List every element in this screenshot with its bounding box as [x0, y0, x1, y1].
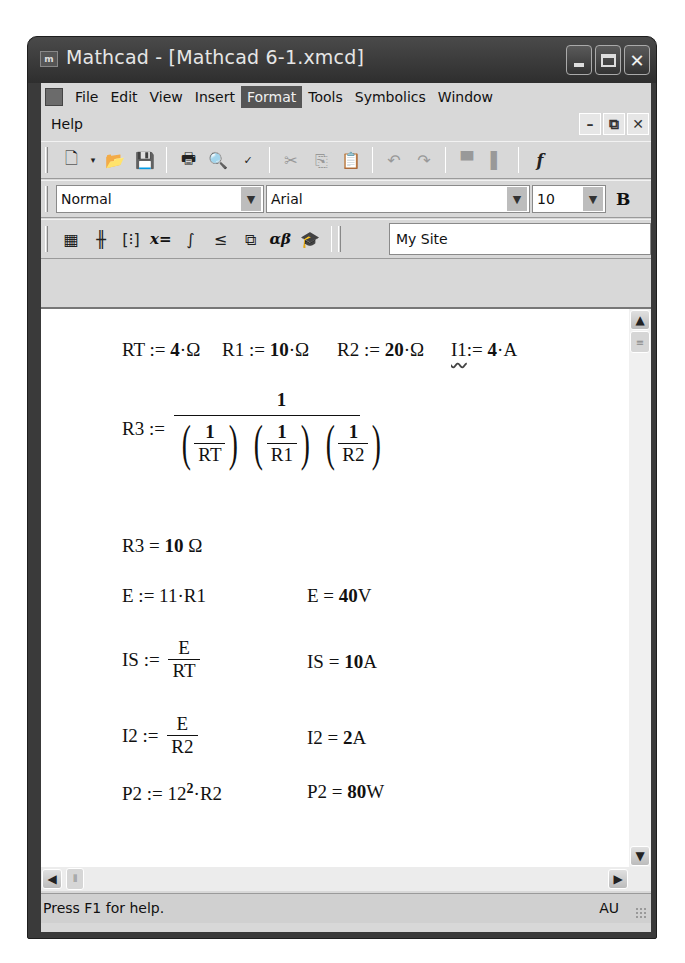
maximize-button[interactable] [595, 45, 621, 75]
chevron-left-icon: ◀ [47, 872, 56, 886]
new-dropdown-icon[interactable]: ▾ [88, 147, 98, 173]
matrix-icon[interactable]: [⁝] [118, 226, 144, 252]
style-select[interactable]: Normal ▼ [56, 185, 264, 213]
cut-icon[interactable]: ✂ [278, 147, 304, 173]
font-select[interactable]: Arial ▼ [266, 185, 530, 213]
print-preview-icon[interactable]: 🔍 [205, 147, 231, 173]
menu-edit[interactable]: Edit [104, 86, 143, 108]
rt-definition[interactable]: RT := 4·Ω [122, 339, 200, 361]
separator [166, 147, 167, 173]
menu-help[interactable]: Help [45, 113, 89, 135]
minimize-icon: – [587, 116, 594, 132]
font-value: Arial [267, 191, 507, 207]
resource-center-input[interactable]: My Site [389, 223, 651, 255]
separator [331, 226, 332, 252]
function-icon[interactable]: f [527, 147, 553, 173]
print-icon[interactable]: 🖶 [175, 147, 201, 173]
paste-icon[interactable]: 📋 [338, 147, 364, 173]
vertical-scroll-thumb[interactable]: ≡ [630, 331, 650, 353]
toolbar-grip[interactable] [338, 226, 341, 252]
separator [445, 147, 446, 173]
p2-definition[interactable]: P2 := 122·R2 [122, 781, 222, 805]
scroll-up-button[interactable]: ▲ [630, 310, 650, 330]
separator [372, 147, 373, 173]
programming-icon[interactable]: ⧉ [238, 226, 264, 252]
is-definition[interactable]: IS := ERT [122, 637, 200, 682]
r3-result[interactable]: R3 = 10 Ω [122, 535, 202, 557]
doc-restore-button[interactable]: ⧉ [603, 113, 625, 135]
chevron-down-icon[interactable]: ▼ [241, 187, 261, 211]
menu-format[interactable]: Format [241, 86, 302, 108]
status-bar: Press F1 for help. AU [41, 893, 651, 923]
evaluation-icon[interactable]: x= [150, 230, 172, 248]
undo-icon[interactable]: ↶ [381, 147, 407, 173]
document-icon[interactable] [45, 88, 63, 106]
standard-toolbar: 🗋 ▾ 📂 💾 🖶 🔍 ✓ ✂ ⎘ 📋 ↶ ↷ ▀ ▌ f [41, 141, 651, 179]
bold-button[interactable]: B [616, 189, 630, 209]
symbolic-icon[interactable]: 🎓 [297, 226, 323, 252]
scroll-left-button[interactable]: ◀ [42, 869, 62, 889]
worksheet[interactable]: RT := 4·Ω R1 := 10·Ω R2 := 20·Ω I1:= 4·A… [41, 307, 651, 867]
i1-warning-name: I1 [451, 339, 467, 360]
menu-insert[interactable]: Insert [189, 86, 241, 108]
calculator-icon[interactable]: ▦ [58, 226, 84, 252]
doc-close-button[interactable]: ✕ [627, 113, 649, 135]
open-folder-icon[interactable]: 📂 [102, 147, 128, 173]
i2-result[interactable]: I2 = 2A [307, 727, 366, 749]
status-help-text: Press F1 for help. [43, 900, 164, 916]
chevron-down-icon[interactable]: ▼ [507, 187, 527, 211]
scroll-right-button[interactable]: ▶ [608, 869, 628, 889]
r2-definition[interactable]: R2 := 20·Ω [337, 339, 424, 361]
align-down-icon[interactable]: ▌ [484, 147, 510, 173]
vertical-scrollbar[interactable]: ▲ ≡ ▼ [629, 309, 651, 867]
new-document-icon[interactable]: 🗋 [58, 147, 84, 173]
spell-check-icon[interactable]: ✓ [235, 147, 261, 173]
status-mode: AU [599, 900, 619, 916]
graph-icon[interactable]: ╫ [88, 226, 114, 252]
menu-view[interactable]: View [144, 86, 189, 108]
menu-bar-row-2: Help [41, 111, 651, 137]
horizontal-scrollbar[interactable]: ◀ ⦀ ▶ [41, 867, 651, 891]
e-result[interactable]: E = 40V [307, 585, 372, 607]
toolbar-grip[interactable] [45, 226, 48, 252]
title-bar[interactable]: m Mathcad - [Mathcad 6-1.xmcd] ✕ [28, 37, 656, 83]
menu-tools[interactable]: Tools [302, 86, 349, 108]
i2-definition[interactable]: I2 := ER2 [122, 713, 198, 758]
menu-symbolics[interactable]: Symbolics [349, 86, 432, 108]
i1-definition[interactable]: I1:= 4·A [451, 339, 517, 361]
copy-icon[interactable]: ⎘ [308, 147, 334, 173]
redo-icon[interactable]: ↷ [411, 147, 437, 173]
is-result[interactable]: IS = 10A [307, 651, 377, 673]
minimize-icon [574, 63, 584, 67]
horizontal-scroll-thumb[interactable]: ⦀ [66, 868, 84, 890]
close-button[interactable]: ✕ [624, 45, 650, 75]
mathcad-window: m Mathcad - [Mathcad 6-1.xmcd] ✕ File Ed… [27, 36, 657, 939]
r3-definition[interactable]: R3 := 1 (1RT) (1R1) (1R2) [122, 389, 389, 468]
separator [269, 147, 270, 173]
font-size-select[interactable]: 10 ▼ [532, 185, 606, 213]
e-definition[interactable]: E := 11·R1 [122, 585, 206, 607]
client-area: File Edit View Insert Format Tools Symbo… [41, 83, 651, 932]
font-size-value: 10 [533, 191, 583, 207]
calculus-icon[interactable]: ∫ [178, 226, 204, 252]
menu-window[interactable]: Window [432, 86, 499, 108]
resize-grip[interactable] [635, 907, 647, 919]
doc-minimize-button[interactable]: – [579, 113, 601, 135]
boolean-icon[interactable]: ≤ [208, 226, 234, 252]
save-icon[interactable]: 💾 [132, 147, 158, 173]
mathcad-app-icon[interactable]: m [40, 51, 58, 67]
greek-icon[interactable]: αβ [270, 230, 292, 248]
minimize-button[interactable] [566, 45, 592, 75]
menu-file[interactable]: File [69, 86, 104, 108]
chevron-up-icon: ▲ [635, 313, 644, 327]
align-top-icon[interactable]: ▀ [454, 147, 480, 173]
r1-definition[interactable]: R1 := 10·Ω [222, 339, 309, 361]
toolbar-grip[interactable] [45, 147, 48, 173]
chevron-down-icon: ▼ [635, 849, 644, 863]
scroll-down-button[interactable]: ▼ [630, 846, 650, 866]
toolbar-grip[interactable] [45, 186, 48, 212]
formatting-toolbar: Normal ▼ Arial ▼ 10 ▼ B [41, 180, 651, 218]
p2-result[interactable]: P2 = 80W [307, 781, 384, 803]
close-icon: ✕ [632, 116, 644, 132]
chevron-down-icon[interactable]: ▼ [583, 187, 603, 211]
